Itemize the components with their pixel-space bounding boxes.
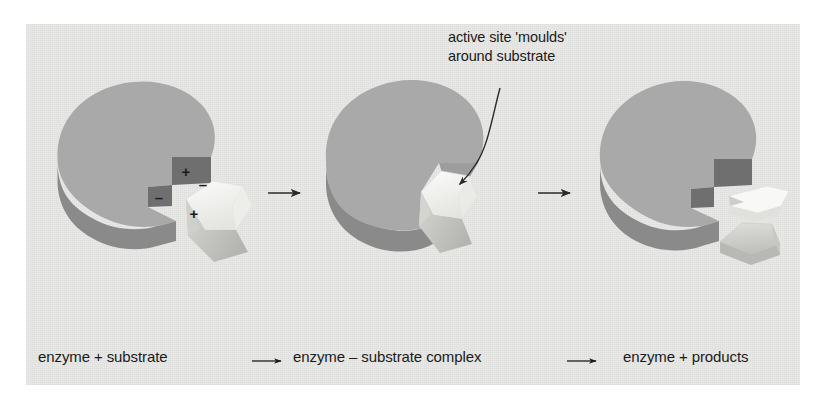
- enzyme-3-notch-face-lower: [691, 187, 714, 208]
- charge-enzyme-upper-plus: +: [182, 163, 191, 180]
- panel-3-enzyme-plus-products: [600, 81, 789, 265]
- charge-enzyme-lower-minus: –: [155, 189, 163, 206]
- annotation-line-2: around substrate: [448, 47, 567, 66]
- enzyme-3-notch-face-upper: [714, 159, 752, 187]
- illustration-artwork: + – – +: [0, 0, 826, 403]
- panel-2-enzyme-substrate-complex: [326, 80, 500, 253]
- caption-enzyme-plus-products: enzyme + products: [623, 348, 748, 365]
- enzyme-induced-fit-figure: + – – +: [0, 0, 826, 403]
- active-site-annotation: active site 'moulds' around substrate: [448, 28, 567, 66]
- panel-1-enzyme-plus-substrate: + – – +: [57, 81, 252, 262]
- annotation-line-1: active site 'moulds': [448, 28, 567, 47]
- caption-enzyme-substrate-complex: enzyme – substrate complex: [293, 348, 481, 365]
- charge-substrate-lower-plus: +: [190, 205, 199, 222]
- charge-substrate-upper-minus: –: [199, 176, 207, 193]
- caption-enzyme-plus-substrate: enzyme + substrate: [38, 348, 168, 365]
